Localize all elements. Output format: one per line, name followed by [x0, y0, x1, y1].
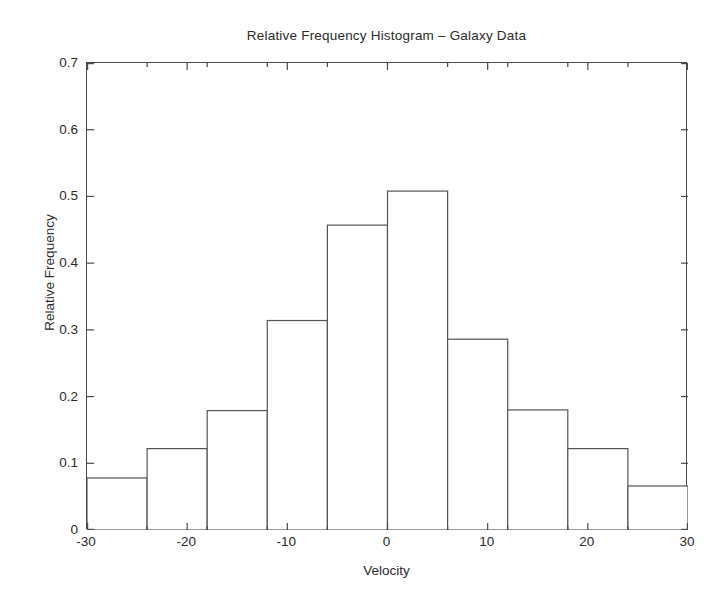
histogram-bar [508, 410, 568, 530]
plot-area [86, 62, 687, 529]
y-tick-label: 0.6 [38, 121, 78, 136]
x-tick-label: 30 [679, 534, 694, 549]
histogram-bars [87, 63, 688, 530]
histogram-figure: Relative Frequency Histogram – Galaxy Da… [0, 0, 719, 606]
bars-group [87, 191, 688, 530]
histogram-bar [267, 321, 327, 530]
y-tick-label: 0.4 [38, 255, 78, 270]
x-tick-label: 20 [579, 534, 594, 549]
x-tick-label: -10 [277, 534, 297, 549]
histogram-bar [628, 486, 688, 530]
histogram-bar [388, 191, 448, 530]
x-tick-label: 0 [383, 534, 391, 549]
y-tick-label: 0.1 [38, 455, 78, 470]
x-axis-tick-labels: -30-20-100102030 [86, 534, 687, 556]
x-tick-label: -20 [176, 534, 196, 549]
histogram-bar [87, 478, 147, 530]
histogram-bar [207, 411, 267, 530]
y-tick-label: 0.2 [38, 388, 78, 403]
y-tick-label: 0.5 [38, 188, 78, 203]
x-tick-label: -30 [76, 534, 96, 549]
histogram-bar [327, 225, 387, 530]
y-axis-tick-labels: 00.10.20.30.40.50.60.7 [30, 62, 78, 529]
histogram-bar [568, 449, 628, 530]
histogram-bar [147, 449, 207, 530]
y-tick-label: 0.7 [38, 55, 78, 70]
x-tick-label: 10 [479, 534, 494, 549]
y-tick-label: 0.3 [38, 321, 78, 336]
chart-title: Relative Frequency Histogram – Galaxy Da… [86, 28, 687, 43]
y-tick-label: 0 [38, 522, 78, 537]
histogram-bar [448, 339, 508, 530]
x-axis-title: Velocity [86, 563, 687, 578]
